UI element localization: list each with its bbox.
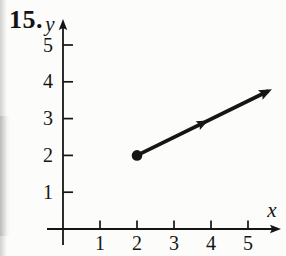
- x-tick-label: 1: [95, 232, 105, 254]
- y-tick-label: 3: [43, 107, 53, 129]
- y-tick-label: 1: [43, 181, 53, 203]
- y-axis-label: y: [43, 12, 55, 36]
- ray-endpoint-dot: [132, 150, 143, 161]
- x-tick-label: 2: [132, 232, 142, 254]
- x-axis-label: x: [266, 198, 277, 222]
- x-tick-label: 4: [206, 232, 216, 254]
- y-tick-label: 4: [43, 70, 53, 92]
- y-tick-label: 2: [43, 144, 53, 166]
- x-tick-label: 3: [169, 232, 179, 254]
- coordinate-plane: xy1234512345: [0, 0, 286, 256]
- x-tick-label: 5: [243, 232, 253, 254]
- textbook-figure: 15. xy1234512345: [0, 0, 286, 256]
- y-tick-label: 5: [43, 34, 53, 56]
